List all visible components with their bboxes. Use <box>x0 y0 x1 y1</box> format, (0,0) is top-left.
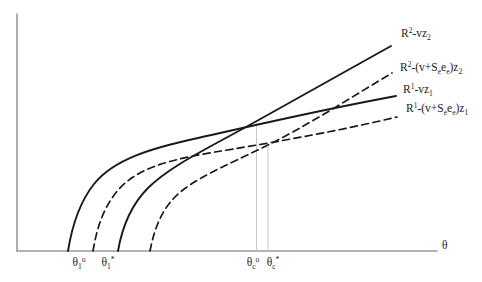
label-r1-vz1: R1-vz1 <box>403 83 433 95</box>
label-r2-vz2: R2-vz2 <box>401 27 431 39</box>
label-theta-axis: θ <box>442 239 448 251</box>
curve-r1-subsidy <box>93 117 397 251</box>
label-r1-subsidy: R1-(v+Seee)z1 <box>406 102 468 114</box>
diagram-canvas <box>0 0 482 282</box>
label-r2-subsidy: R2-(v+Seee)z2 <box>400 61 462 73</box>
figure: R2-vz2R2-(v+Seee)z2R1-vz1R1-(v+Seee)z1θ1… <box>0 0 482 282</box>
vertical-guides <box>257 123 269 251</box>
curves <box>68 46 397 251</box>
label-theta-1-star: θ1* <box>101 256 114 268</box>
curve-r1-vz1 <box>68 96 396 251</box>
curve-r2-subsidy <box>150 73 392 251</box>
label-theta-c-o: θco <box>247 256 260 268</box>
label-theta-1-o: θ1o <box>72 256 85 268</box>
label-theta-c-star: θc* <box>267 256 280 268</box>
